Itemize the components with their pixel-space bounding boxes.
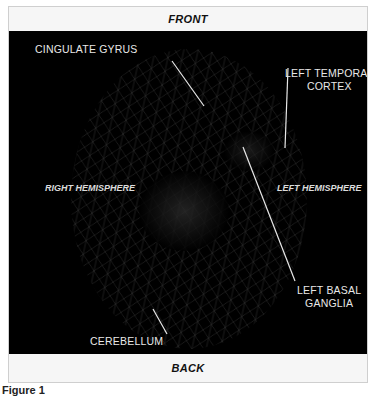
front-label: FRONT [168,13,207,25]
label-left-temporal-cortex: LEFT TEMPORAL CORTEX [285,67,367,93]
back-label: BACK [172,362,205,374]
label-left-hemisphere: LEFT HEMISPHERE [277,183,362,193]
figure-frame: FRONT [8,6,368,383]
brain-network-stage: CINGULATE GYRUS LEFT TEMPORAL CORTEX RIG… [9,31,367,355]
front-band: FRONT [9,7,367,31]
back-band: BACK [9,354,367,382]
label-left-basal-ganglia: LEFT BASAL GANGLIA [297,284,361,310]
label-right-hemisphere: RIGHT HEMISPHERE [45,183,135,193]
figure-caption: Figure 1 [2,384,45,396]
label-cingulate-gyrus: CINGULATE GYRUS [35,43,138,56]
label-cerebellum: CEREBELLUM [90,335,163,348]
